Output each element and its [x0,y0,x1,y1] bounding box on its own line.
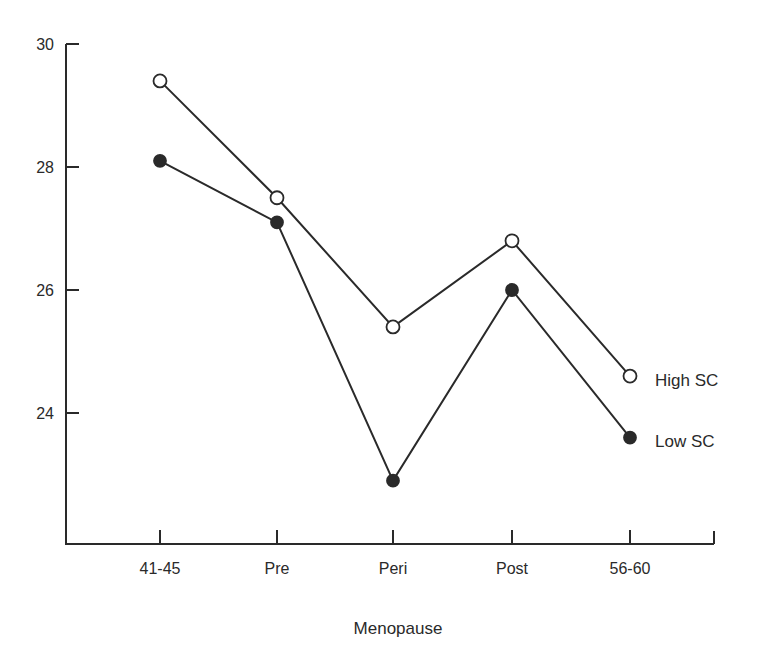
open-circle-marker-icon [624,370,637,383]
y-tick-label: 26 [36,282,54,299]
filled-circle-marker-icon [154,155,166,167]
open-circle-marker-icon [506,234,519,247]
filled-circle-marker-icon [387,475,399,487]
filled-circle-marker-icon [506,284,518,296]
x-tick-label: Peri [379,560,407,577]
filled-circle-marker-icon [624,432,636,444]
x-tick-label: 41-45 [140,560,181,577]
series-label: High SC [655,371,718,390]
filled-circle-marker-icon [271,216,283,228]
open-circle-marker-icon [271,191,284,204]
y-axis-ticks: 30282624 [36,36,79,422]
x-tick-label: Post [496,560,529,577]
series-high-sc: High SC [154,74,719,390]
x-tick-label: Pre [265,560,290,577]
x-tick-label: 56-60 [610,560,651,577]
axes [65,44,714,544]
x-axis-title: Menopause [354,619,443,638]
x-axis-ticks: 41-45PrePeriPost56-60 [140,530,651,577]
open-circle-marker-icon [387,320,400,333]
line-chart: 30282624 41-45PrePeriPost56-60 High SCLo… [0,0,761,665]
y-tick-label: 28 [36,159,54,176]
y-tick-label: 24 [36,405,54,422]
series-low-sc: Low SC [154,155,715,487]
series-label: Low SC [655,432,715,451]
series-lines: High SCLow SC [154,74,719,486]
open-circle-marker-icon [154,74,167,87]
y-tick-label: 30 [36,36,54,53]
